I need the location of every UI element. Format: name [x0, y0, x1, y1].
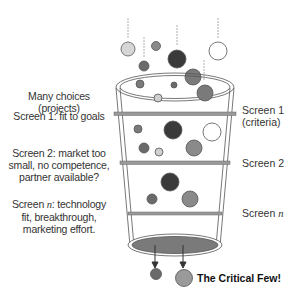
- label-line: partner available?: [6, 171, 112, 183]
- label-line: Screen n: technology: [6, 198, 112, 211]
- funnel-bottom: [128, 234, 222, 256]
- label-italic-n: n: [278, 208, 283, 219]
- label-critical-few: The Critical Few!: [197, 272, 281, 284]
- label-screen-1-criteria: Screen 1: fit to goals: [6, 110, 112, 122]
- label-text: : technology: [52, 198, 106, 210]
- label-screen-2-criteria: Screen 2: market too small, no competenc…: [6, 147, 112, 183]
- ball: [209, 42, 227, 60]
- balls-screen-2: [147, 173, 198, 207]
- balls-screen-1: [134, 121, 221, 156]
- ball: [168, 50, 186, 68]
- screen-1-bar: [114, 112, 236, 116]
- critical-few-balls: [151, 269, 193, 287]
- label-line: fit, breakthrough,: [6, 211, 112, 223]
- label-screen-2: Screen 2: [242, 157, 284, 169]
- ball: [139, 61, 149, 71]
- funnel-walls: [116, 88, 234, 246]
- label-line: (criteria): [242, 116, 284, 128]
- ball: [152, 42, 161, 51]
- label-line: small, no competence,: [6, 159, 112, 171]
- label-line: Screen 2: market too: [6, 147, 112, 159]
- ball: [121, 42, 135, 56]
- screen-2-bar: [120, 161, 230, 165]
- label-screen-n: Screen n: [242, 207, 283, 220]
- ball: [185, 69, 201, 85]
- screen-n-bar: [128, 212, 222, 215]
- label-text: Screen: [12, 198, 47, 210]
- label-line: Screen 1: [242, 104, 284, 116]
- label-text: Screen: [242, 207, 278, 219]
- label-screen-1: Screen 1 (criteria): [242, 104, 284, 128]
- label-screen-n-criteria: Screen n: technology fit, breakthrough, …: [6, 198, 112, 235]
- label-line: marketing effort.: [6, 223, 112, 235]
